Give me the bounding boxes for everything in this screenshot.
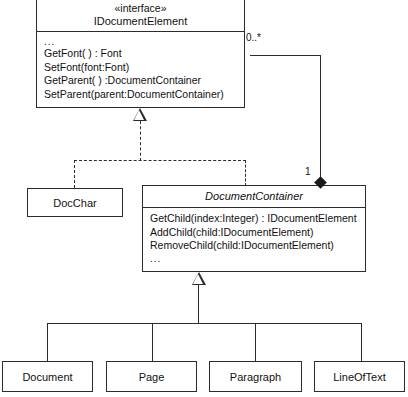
class-name-documentcontainer: DocumentContainer: [145, 190, 363, 203]
uml-class-diagram-canvas: «interface» IDocumentElement ... GetFont…: [0, 0, 408, 397]
multiplicity-label-target: 1: [305, 166, 311, 177]
class-box-idocumentelement[interactable]: «interface» IDocumentElement ... GetFont…: [36, 0, 245, 108]
multiplicity-label-source: 0..*: [246, 32, 261, 43]
generalization-line-bus: [47, 323, 362, 324]
operations-compartment-idocumentelement: ... GetFont( ) : Font SetFont(font:Font)…: [37, 32, 244, 105]
class-name-idocumentelement: IDocumentElement: [39, 15, 242, 28]
operation-removechild: RemoveChild(child:IDocumentElement): [150, 239, 359, 253]
class-box-page[interactable]: Page: [106, 361, 197, 392]
class-box-docchar[interactable]: DocChar: [27, 188, 123, 217]
operation-getparent: GetParent( ) :DocumentContainer: [44, 74, 238, 88]
operation-setfont: SetFont(font:Font): [44, 61, 238, 75]
class-box-lineoftext[interactable]: LineOfText: [314, 361, 405, 392]
realization-line-bus: [74, 160, 246, 161]
class-name-lineoftext: LineOfText: [333, 371, 386, 383]
class-name-document: Document: [22, 371, 72, 383]
stereotype-label: «interface»: [39, 2, 242, 15]
class-name-docchar: DocChar: [53, 197, 96, 209]
class-header-documentcontainer: DocumentContainer: [143, 186, 365, 207]
operation-getfont: GetFont( ) : Font: [44, 47, 238, 61]
class-box-document[interactable]: Document: [2, 361, 93, 392]
generalization-line-drop-lineoftext: [361, 323, 362, 361]
operation-getchild: GetChild(index:Integer) : IDocumentEleme…: [150, 212, 359, 226]
generalization-line-stem: [198, 285, 199, 324]
class-name-page: Page: [139, 371, 165, 383]
association-line-vertical: [320, 55, 321, 181]
operation-ellipsis: ...: [44, 36, 238, 47]
operation-ellipsis-documentcontainer: ...: [150, 253, 359, 264]
realization-line-drop-docchar: [74, 160, 75, 188]
operation-addchild: AddChild(child:IDocumentElement): [150, 226, 359, 240]
generalization-line-drop-document: [47, 323, 48, 361]
class-box-paragraph[interactable]: Paragraph: [209, 361, 302, 392]
class-box-documentcontainer[interactable]: DocumentContainer GetChild(index:Integer…: [142, 185, 366, 272]
class-header-idocumentelement: «interface» IDocumentElement: [37, 0, 244, 31]
operation-setparent: SetParent(parent:DocumentContainer): [44, 88, 238, 102]
association-line-horizontal: [250, 55, 321, 56]
realization-line-drop-documentcontainer: [245, 160, 246, 186]
realization-line-stem: [140, 121, 141, 161]
class-name-paragraph: Paragraph: [230, 371, 281, 383]
association-arrowhead-icon: [245, 50, 255, 60]
generalization-line-drop-page: [152, 323, 153, 361]
operations-compartment-documentcontainer: GetChild(index:Integer) : IDocumentEleme…: [143, 208, 365, 268]
generalization-line-drop-paragraph: [255, 323, 256, 361]
